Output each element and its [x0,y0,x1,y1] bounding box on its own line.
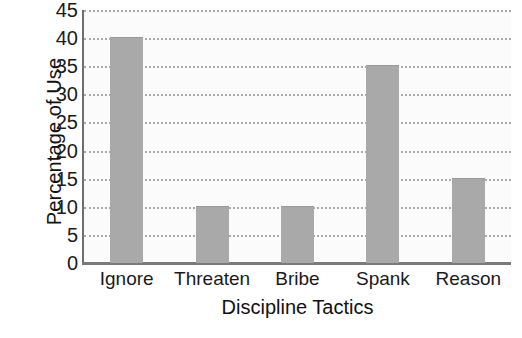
bar-threaten [196,206,229,263]
y-tick-label: 10 [26,197,78,217]
y-tick-label: 15 [26,169,78,189]
x-tick-label-bribe: Bribe [275,267,319,291]
y-tick-label: 40 [26,28,78,48]
y-axis-tick-labels: 454035302520151050 [26,10,78,266]
bar-chart: Percentage of Use 454035302520151050 Ign… [0,0,522,338]
bar-spank [366,65,399,263]
bar-ignore [110,37,143,263]
x-tick-label-threaten: Threaten [174,267,250,291]
x-tick-label-ignore: Ignore [100,267,154,291]
x-axis-tick-labels: IgnoreThreatenBribeSpankReason [84,267,511,293]
bar-reason [452,178,485,263]
bar-bribe [281,206,314,263]
y-tick-label: 25 [26,112,78,132]
y-tick-label: 30 [26,84,78,104]
y-tick-label: 0 [26,253,78,273]
bars-layer [84,10,511,263]
x-tick-label-spank: Spank [356,267,410,291]
y-tick-label: 5 [26,225,78,245]
x-tick-label-reason: Reason [436,267,502,291]
y-tick-label: 45 [26,0,78,20]
y-tick-label: 35 [26,56,78,76]
x-axis-title: Discipline Tactics [84,296,511,319]
y-tick-label: 20 [26,141,78,161]
